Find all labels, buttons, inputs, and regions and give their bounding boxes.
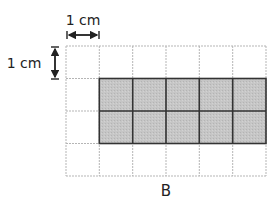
vertical-unit-label: 1 cm [7, 55, 42, 71]
figure-caption: B [161, 182, 171, 200]
horizontal-unit-arrow-icon [67, 31, 99, 39]
grid-diagram: 1 cm 1 cm B [0, 0, 278, 208]
vertical-unit-arrow-icon [51, 47, 59, 79]
horizontal-unit-label: 1 cm [66, 12, 101, 28]
